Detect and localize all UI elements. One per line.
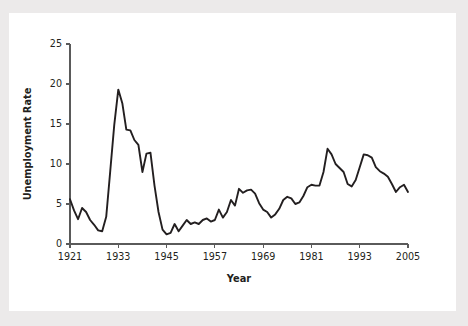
series-group <box>70 90 408 235</box>
figure-card: 0510152025 19211933194519571969198119932… <box>9 13 456 311</box>
unemployment-rate-line-chart: 0510152025 19211933194519571969198119932… <box>9 13 456 311</box>
series-line-unemployment-rate <box>70 90 408 235</box>
x-tick-label: 1945 <box>154 251 178 262</box>
y-tick-label: 0 <box>56 238 62 249</box>
y-tick-label: 20 <box>50 78 62 89</box>
chart-plot-region: 0510152025 19211933194519571969198119932… <box>9 13 456 311</box>
x-tick-group: 19211933194519571969198119932005 <box>58 244 420 262</box>
x-tick-label: 1993 <box>348 251 372 262</box>
axes-group <box>70 44 408 244</box>
y-tick-group: 0510152025 <box>50 38 70 249</box>
y-tick-label: 10 <box>50 158 62 169</box>
x-tick-label: 1933 <box>106 251 130 262</box>
x-tick-label: 1981 <box>299 251 323 262</box>
y-tick-label: 15 <box>50 118 62 129</box>
x-tick-label: 1921 <box>58 251 82 262</box>
y-tick-label: 25 <box>50 38 62 49</box>
screenshot-root: 0510152025 19211933194519571969198119932… <box>0 0 468 326</box>
x-axis-title: Year <box>226 273 251 284</box>
y-axis-title: Unemployment Rate <box>22 87 33 200</box>
x-tick-label: 1969 <box>251 251 275 262</box>
x-tick-label: 1957 <box>203 251 227 262</box>
y-tick-label: 5 <box>56 198 62 209</box>
x-tick-label: 2005 <box>396 251 420 262</box>
